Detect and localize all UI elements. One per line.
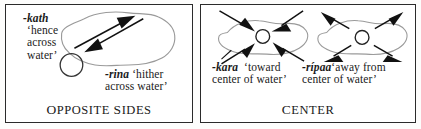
arrow-ripaa-out-upper-left bbox=[321, 12, 350, 29]
label-rina: -rina ‘hitheracross water’ bbox=[105, 68, 191, 92]
arrow-kara-in-upper-left bbox=[220, 11, 255, 32]
center-circle-kara bbox=[256, 30, 270, 44]
kara-diagram-group bbox=[219, 11, 308, 64]
caption-opposite-sides: OPPOSITE SIDES bbox=[6, 102, 192, 118]
water-blob-ripaa bbox=[318, 21, 407, 55]
center-circle-ripaa bbox=[355, 31, 369, 45]
arrow-ripaa-out-lower-right bbox=[374, 45, 403, 62]
gloss-kath-line2: across bbox=[27, 36, 56, 48]
gloss-ripaa-line2: center of water’ bbox=[302, 73, 377, 85]
figure-root: -kath‘henceacrosswater’ -rina ‘hitheracr… bbox=[0, 0, 421, 129]
gloss-kath: ‘henceacrosswater’ bbox=[23, 24, 85, 61]
arrow-ripaa-out-upper-right bbox=[375, 12, 404, 29]
morpheme-kara: -kara bbox=[212, 61, 238, 73]
caption-center: CENTER bbox=[201, 102, 415, 118]
label-kath: -kath‘henceacrosswater’ bbox=[23, 12, 85, 61]
water-blob-kara bbox=[219, 21, 308, 55]
leader-line-kara bbox=[221, 50, 231, 59]
ripaa-diagram-group bbox=[318, 12, 407, 62]
arrow-kara-in-lower-right bbox=[273, 42, 304, 61]
arrow-hither-across bbox=[84, 19, 143, 52]
arrow-kara-in-upper-right bbox=[272, 11, 303, 32]
label-ripaa: -rípaa‘away fromcenter of water’ bbox=[302, 61, 407, 85]
gloss-kath-line3: water’ bbox=[27, 49, 57, 61]
gloss-kara-line1: ‘toward bbox=[244, 61, 280, 73]
gloss-kath-line1: ‘hence bbox=[27, 24, 58, 36]
arrow-ripaa-out-lower-left bbox=[324, 45, 352, 62]
morpheme-rina: -rina bbox=[105, 68, 129, 80]
morpheme-ripaa: -rípaa bbox=[302, 61, 331, 73]
gloss-rina-line2: across water’ bbox=[105, 80, 168, 92]
gloss-rina-line1: ‘hither bbox=[132, 68, 163, 80]
panel-opposite-sides: -kath‘henceacrosswater’ -rina ‘hitheracr… bbox=[5, 4, 193, 123]
panel-center: -kara ‘towardcenter of water’ -rípaa‘awa… bbox=[200, 4, 416, 123]
morpheme-kath: -kath bbox=[23, 12, 48, 24]
gloss-ripaa-line1: ‘away from bbox=[331, 61, 385, 73]
gloss-kara-line2: center of water’ bbox=[212, 73, 287, 85]
label-kara: -kara ‘towardcenter of water’ bbox=[212, 61, 304, 85]
